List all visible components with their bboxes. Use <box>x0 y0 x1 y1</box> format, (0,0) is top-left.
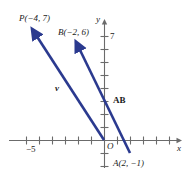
x-axis-label: x <box>177 144 181 153</box>
x-tick-label-minus5: −5 <box>26 145 36 154</box>
point-label-a: A(2, −1) <box>113 159 144 168</box>
y-tick-label-7: 7 <box>110 32 115 41</box>
origin-label: O <box>107 142 114 151</box>
y-axis-label: y <box>96 15 100 24</box>
coordinate-plane-svg <box>0 0 189 183</box>
point-label-p: P(−4, 7) <box>19 14 50 23</box>
point-label-b: B(−2, 6) <box>58 28 89 37</box>
vector-label-ab: AB <box>113 96 126 105</box>
vector-label-v: v <box>55 84 59 93</box>
vector-v-arrow <box>36 35 104 140</box>
vector-diagram-figure: P(−4, 7) B(−2, 6) A(2, −1) v AB O −5 7 x… <box>0 0 189 183</box>
